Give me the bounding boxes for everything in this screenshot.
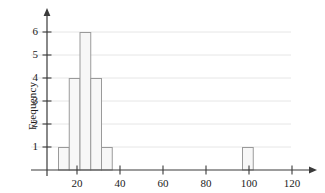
x-axis-arrow-icon (309, 167, 317, 174)
x-tick-label-20: 20 (62, 178, 92, 189)
y-axis-arrow-icon (44, 8, 51, 16)
y-tick-label-1: 1 (20, 141, 38, 152)
bar-bin-10-15 (59, 148, 70, 171)
plot-area (0, 0, 325, 193)
x-tick-label-100: 100 (234, 178, 264, 189)
bar-bin-100-105 (243, 148, 254, 171)
x-tick-label-40: 40 (105, 178, 135, 189)
x-tick-label-120: 120 (277, 178, 307, 189)
histogram-figure: Frequency 1 2 3 4 5 6 20 40 60 80 100 12… (0, 0, 325, 193)
y-tick-label-4: 4 (20, 72, 38, 83)
y-tick-label-5: 5 (20, 49, 38, 60)
bar-bin-15-20 (69, 79, 80, 171)
bar-bin-25-30 (91, 79, 102, 171)
x-tick-label-60: 60 (148, 178, 178, 189)
y-tick-label-2: 2 (20, 118, 38, 129)
x-tick-label-80: 80 (191, 178, 221, 189)
bar-bin-30-35 (102, 148, 113, 171)
bar-bin-20-25 (80, 33, 91, 171)
y-tick-label-3: 3 (20, 95, 38, 106)
y-tick-label-6: 6 (20, 26, 38, 37)
